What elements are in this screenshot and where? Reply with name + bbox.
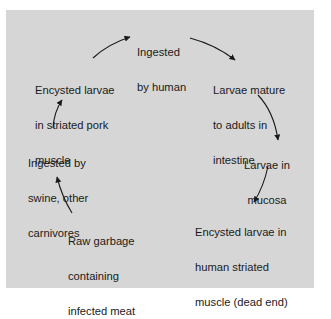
- node-encysted-human: Encysted larvae in human striated muscle…: [195, 204, 288, 319]
- node-line: infected meat: [68, 306, 135, 318]
- node-line: in striated pork: [35, 120, 115, 132]
- node-line: muscle (dead end): [195, 297, 288, 309]
- node-line: by human: [137, 82, 186, 94]
- node-line: Larvae in: [244, 160, 290, 172]
- node-ingested-by-human: Ingested by human: [137, 24, 186, 105]
- node-line: Encysted larvae: [35, 85, 115, 97]
- node-line: carnivores: [28, 228, 88, 240]
- node-line: containing: [68, 271, 135, 283]
- node-line: to adults in: [213, 120, 285, 132]
- node-encysted-pork: Encysted larvae in striated pork muscle: [35, 62, 115, 178]
- node-line: Larvae mature: [213, 85, 285, 97]
- node-line: human striated: [195, 262, 288, 274]
- node-line: muscle: [35, 155, 115, 167]
- node-line: swine, other: [28, 193, 88, 205]
- node-line: Encysted larvae in: [195, 227, 288, 239]
- node-line: Ingested: [137, 47, 186, 59]
